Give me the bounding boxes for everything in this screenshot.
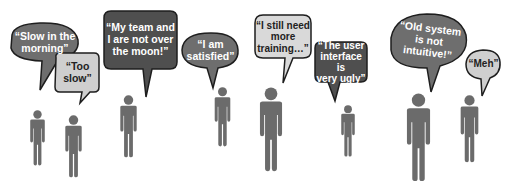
feedback-illustration: “Slow in the morning” “Too slow” “My tea… <box>0 0 519 190</box>
person-icon-1 <box>30 110 45 165</box>
quote-meh: “Meh” <box>467 54 500 74</box>
person-icon-7 <box>407 93 430 181</box>
people-group <box>30 87 478 181</box>
quote-need-training: “I still need more training…” <box>255 17 311 57</box>
person-icon-6 <box>341 105 355 156</box>
quote-not-over-moon: “My team and I are not over the moon!” <box>104 13 177 67</box>
quote-satisfied: “I am satisfied” <box>184 37 237 65</box>
quote-ui-ugly: “The user interface is very ugly” <box>315 43 367 81</box>
quote-too-slow: “Too slow” <box>56 55 99 91</box>
person-icon-3 <box>120 95 136 157</box>
person-icon-4 <box>215 87 231 146</box>
person-icon-5 <box>260 87 282 171</box>
person-icon-2 <box>65 115 81 177</box>
quote-old-system: “Old system is not intuitive!” <box>393 14 464 68</box>
person-icon-8 <box>461 95 479 162</box>
quote-slow-morning: “Slow in the morning” <box>12 28 78 58</box>
